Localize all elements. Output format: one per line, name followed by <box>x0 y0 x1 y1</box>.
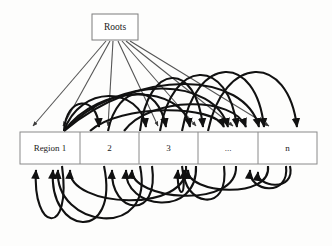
region-cell-label-ellipsis: ... <box>225 143 232 153</box>
reference-arc <box>36 166 64 218</box>
region-cell-label-1: Region 1 <box>34 143 67 153</box>
region-cell-label-2: 2 <box>107 143 112 153</box>
reference-arc <box>178 166 184 192</box>
roots-node: Roots <box>92 14 138 40</box>
diagram-root: Region 1 2 3 ... n Roots <box>0 0 332 246</box>
region-cell-label-n: n <box>285 143 290 153</box>
diagram-canvas: Region 1 2 3 ... n Roots <box>0 0 332 246</box>
reference-arc <box>90 110 224 131</box>
reference-arc <box>188 166 268 190</box>
roots-label: Roots <box>104 22 126 32</box>
region-bar: Region 1 2 3 ... n <box>20 132 317 164</box>
lower-arc-group <box>36 166 291 222</box>
region-cell-label-3: 3 <box>166 143 171 153</box>
reference-arc <box>53 166 107 222</box>
root-edge <box>108 41 113 126</box>
